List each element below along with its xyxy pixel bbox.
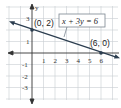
point-0-2: [30, 28, 34, 32]
coordinate-plane: y 1 2 3 4 5 6 3 1 -1 -2 -3 (0, 2) (6, 0)…: [0, 0, 121, 108]
equation-callout: x + 3y = 6: [59, 14, 105, 37]
y-axis-label: y: [35, 4, 39, 12]
y-axis-arrow-down-icon: [30, 99, 34, 104]
x-tick-6: 6: [100, 57, 104, 65]
y-tick-3: 3: [26, 15, 30, 23]
x-tick-3: 3: [65, 57, 69, 65]
y-tick-1: 1: [26, 38, 30, 46]
equation-label: x + 3y = 6: [61, 16, 99, 26]
x-tick-4: 4: [77, 57, 81, 65]
x-tick-5: 5: [88, 57, 92, 65]
y-axis-arrow-up-icon: [30, 4, 34, 9]
y-tick-neg1: -1: [22, 61, 28, 69]
point-label-0-2: (0, 2): [34, 18, 54, 28]
y-tick-neg2: -2: [22, 73, 28, 81]
point-6-0: [99, 51, 103, 55]
point-label-6-0: (6, 0): [90, 38, 110, 48]
x-tick-2: 2: [54, 57, 58, 65]
x-tick-1: 1: [42, 57, 46, 65]
line-arrow-right-icon: [114, 54, 120, 58]
y-tick-neg3: -3: [22, 84, 28, 92]
line-arrow-left-icon: [9, 21, 15, 25]
